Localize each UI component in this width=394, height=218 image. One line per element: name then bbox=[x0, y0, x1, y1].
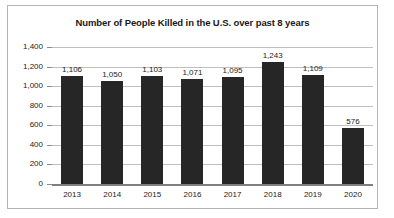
x-axis-tick-label: 2018 bbox=[253, 191, 293, 199]
gridline bbox=[52, 106, 373, 107]
bar bbox=[61, 76, 83, 184]
y-axis-tick bbox=[47, 145, 52, 146]
bar-value-label: 1,243 bbox=[253, 52, 293, 60]
y-axis-tick-label: 800 bbox=[8, 102, 43, 110]
y-axis-tick-label: 1,000 bbox=[8, 82, 43, 90]
x-axis-tick-label: 2013 bbox=[52, 191, 92, 199]
x-axis-tick-label: 2017 bbox=[213, 191, 253, 199]
x-axis-tick-label: 2020 bbox=[333, 191, 373, 199]
y-axis-tick bbox=[47, 47, 52, 48]
y-axis-tick bbox=[47, 125, 52, 126]
y-axis-tick bbox=[47, 164, 52, 165]
gridline bbox=[52, 145, 373, 146]
bar-value-label: 1,106 bbox=[52, 66, 92, 74]
y-axis-tick bbox=[47, 184, 52, 185]
bar bbox=[342, 128, 364, 184]
y-axis-tick bbox=[47, 106, 52, 107]
gridline bbox=[52, 125, 373, 126]
bar bbox=[222, 77, 244, 184]
gridline bbox=[52, 164, 373, 165]
chart-container: Number of People Killed in the U.S. over… bbox=[7, 5, 378, 209]
bar-value-label: 1,103 bbox=[132, 66, 172, 74]
bar-value-label: 1,071 bbox=[172, 69, 212, 77]
y-axis-tick-label: 1,400 bbox=[8, 43, 43, 51]
bar bbox=[101, 81, 123, 184]
x-axis-tick-label: 2015 bbox=[132, 191, 172, 199]
x-axis-line bbox=[52, 184, 373, 186]
x-axis-tick-label: 2016 bbox=[172, 191, 212, 199]
bar-value-label: 576 bbox=[333, 118, 373, 126]
x-axis-tick-label: 2014 bbox=[92, 191, 132, 199]
bar bbox=[181, 79, 203, 184]
y-axis-tick-label: 600 bbox=[8, 121, 43, 129]
y-axis-tick-label: 1,200 bbox=[8, 63, 43, 71]
y-axis-tick bbox=[47, 86, 52, 87]
bar-value-label: 1,050 bbox=[92, 71, 132, 79]
bar-value-label: 1,109 bbox=[293, 65, 333, 73]
bar bbox=[262, 62, 284, 184]
x-axis-tick-label: 2019 bbox=[293, 191, 333, 199]
gridline bbox=[52, 47, 373, 48]
y-axis-tick-label: 0 bbox=[8, 180, 43, 188]
bar bbox=[141, 76, 163, 184]
y-axis-tick-label: 400 bbox=[8, 141, 43, 149]
plot-area: 02004006008001,0001,2001,400 1,1061,0501… bbox=[8, 6, 379, 210]
bar-value-label: 1,095 bbox=[213, 67, 253, 75]
bar bbox=[302, 75, 324, 184]
y-axis-tick-label: 200 bbox=[8, 160, 43, 168]
gridline bbox=[52, 86, 373, 87]
